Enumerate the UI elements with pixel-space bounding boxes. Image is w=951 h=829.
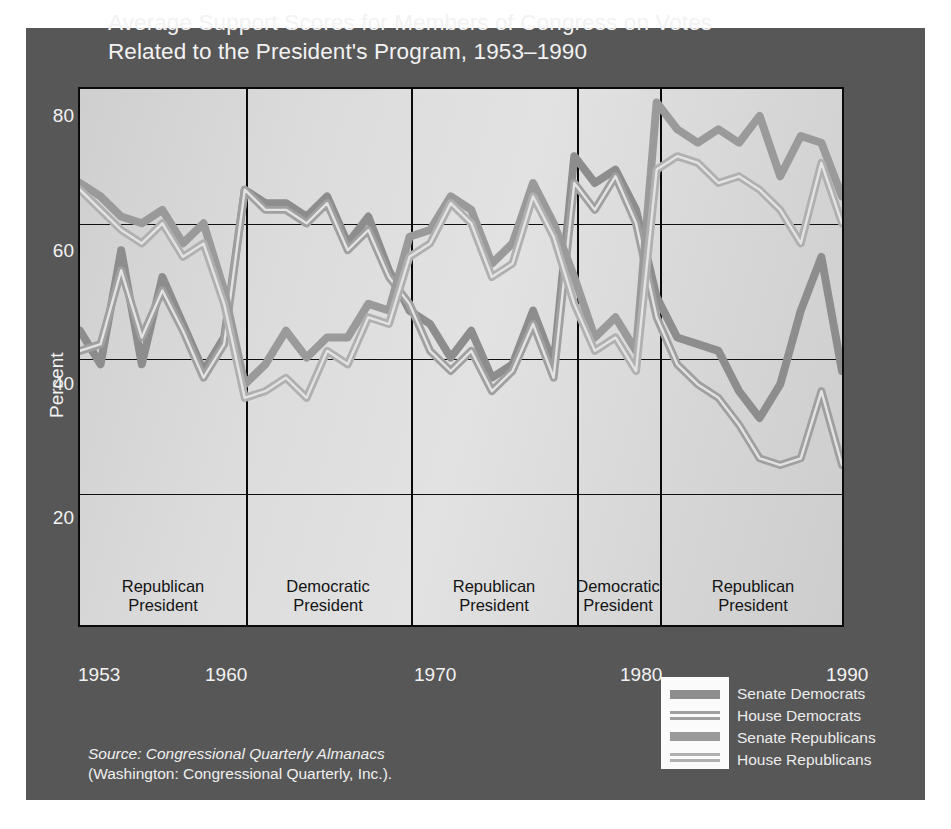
source-title: : Congressional Quarterly Almanacs (137, 745, 385, 762)
legend-swatch-senate-republicans (670, 732, 720, 741)
x-tick-1960: 1960 (205, 664, 247, 686)
series-lines (80, 89, 842, 626)
period-label-2: Republican President (433, 577, 555, 615)
legend: Senate Democrats House Democrats Senate … (661, 677, 899, 775)
legend-swatch-house-democrats (670, 711, 720, 720)
period-label-2-line1: Republican (453, 577, 536, 595)
period-label-0-line1: Republican (122, 577, 205, 595)
chart-title-line2: Related to the President's Program, 1953… (108, 37, 868, 66)
x-tick-1953: 1953 (78, 664, 120, 686)
period-label-0-line2: President (128, 596, 198, 614)
x-tick-1970: 1970 (414, 664, 456, 686)
legend-swatch-box (661, 677, 729, 769)
y-tick-80: 80 (28, 105, 74, 127)
legend-swatch-house-republicans (670, 753, 720, 762)
period-label-0: Republican President (102, 577, 224, 615)
y-tick-60: 60 (28, 240, 74, 262)
period-label-3-line2: President (583, 596, 653, 614)
x-tick-1980: 1980 (620, 664, 662, 686)
period-label-2-line2: President (459, 596, 529, 614)
period-label-3-line1: Democratic (576, 577, 659, 595)
period-label-4-line2: President (718, 596, 788, 614)
series-line-house-democrats-inner (80, 176, 842, 465)
period-label-4: Republican President (692, 577, 814, 615)
chart-title: Average Support Scores for Members of Co… (108, 8, 868, 66)
legend-label-senate-republicans: Senate Republicans (737, 729, 876, 747)
series-line-house-democrats-outer (80, 176, 842, 465)
legend-label-senate-democrats: Senate Democrats (737, 685, 865, 703)
period-label-3: Democratic President (557, 577, 679, 615)
source-label: Source (88, 745, 137, 762)
legend-swatch-senate-democrats (670, 690, 720, 699)
source-note: Source: Congressional Quarterly Almanacs… (88, 744, 392, 784)
source-line1: Source: Congressional Quarterly Almanacs (88, 744, 392, 764)
period-label-4-line1: Republican (712, 577, 795, 595)
legend-label-house-democrats: House Democrats (737, 707, 861, 725)
source-line2: (Washington: Congressional Quarterly, In… (88, 764, 392, 784)
period-label-1-line1: Democratic (286, 577, 369, 595)
figure-root: Average Support Scores for Members of Co… (0, 0, 951, 829)
y-tick-20: 20 (28, 507, 74, 529)
y-axis-label: Percent (46, 353, 68, 418)
chart-title-line1: Average Support Scores for Members of Co… (108, 8, 868, 37)
period-label-1: Democratic President (267, 577, 389, 615)
plot-area: Republican President Democratic Presiden… (78, 87, 844, 627)
period-label-1-line2: President (293, 596, 363, 614)
series-line-senate-democrats (80, 156, 842, 418)
legend-label-house-republicans: House Republicans (737, 751, 871, 769)
